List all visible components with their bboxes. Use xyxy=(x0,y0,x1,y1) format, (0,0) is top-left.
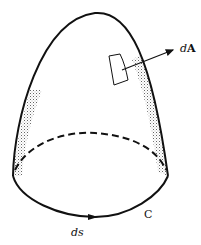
right-shading xyxy=(132,55,168,176)
area-element-patch xyxy=(109,54,128,85)
surface-diagram: dA C ds xyxy=(0,0,201,245)
label-da: dA xyxy=(180,42,196,55)
label-c: C xyxy=(144,208,152,221)
normal-vector-arrow xyxy=(122,50,173,70)
boundary-back-dashed xyxy=(15,133,166,170)
ds-arrow-icon xyxy=(88,214,98,220)
label-ds: ds xyxy=(71,226,84,239)
